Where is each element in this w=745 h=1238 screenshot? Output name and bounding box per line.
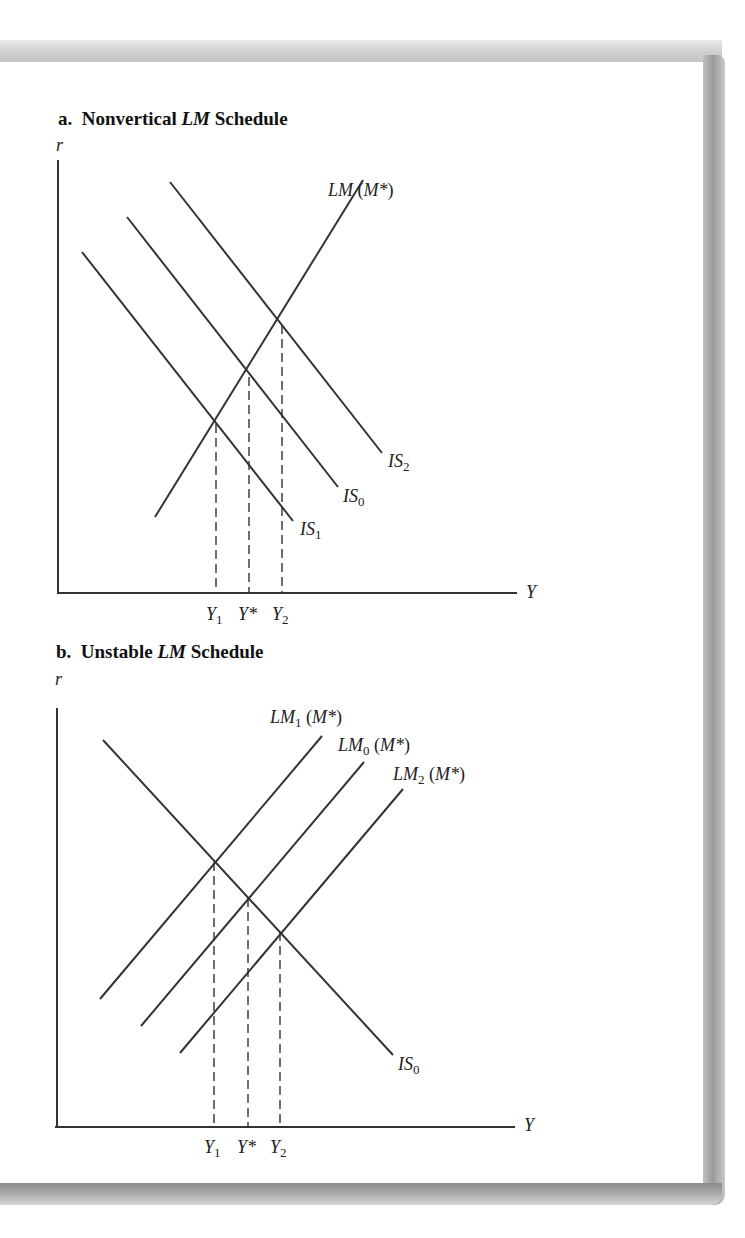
panel-b-tick-y2: Y2 bbox=[270, 1138, 287, 1159]
is0-sub: 0 bbox=[413, 1062, 420, 1077]
panel-b-x-axis-label: Y bbox=[524, 1116, 534, 1134]
lm0-paren-open: ( bbox=[370, 735, 381, 755]
tick-name: Y* bbox=[238, 604, 257, 624]
is0-sub: 0 bbox=[358, 494, 365, 509]
panel-a-tick-y2: Y2 bbox=[272, 605, 289, 626]
panel-b-lm0-label: LM0 (M*) bbox=[338, 736, 410, 757]
panel-a-y-axis-label: r bbox=[56, 136, 63, 154]
panel-a-title: a. Nonvertical LM Schedule bbox=[58, 108, 288, 130]
lm2-paren-open: ( bbox=[425, 764, 436, 784]
tick-sub: 2 bbox=[282, 612, 289, 627]
panel-a-graph bbox=[57, 160, 517, 593]
panel-a-is0-label: IS0 bbox=[343, 487, 365, 508]
panel-a-tick-y1: Y1 bbox=[206, 605, 223, 626]
tick-name: Y bbox=[204, 1137, 214, 1157]
panel-b-title-prefix: b. bbox=[56, 641, 71, 662]
lm-name: LM bbox=[328, 180, 353, 200]
panel-b-lm1-label: LM1 (M*) bbox=[270, 708, 342, 729]
panel-a-title-post: Schedule bbox=[210, 108, 288, 129]
tick-sub: 1 bbox=[216, 612, 223, 627]
panel-b-y-axis-label: r bbox=[55, 670, 62, 688]
tick-name: Y bbox=[272, 604, 282, 624]
lm1-name: LM bbox=[270, 707, 295, 727]
is0-name: IS bbox=[343, 486, 358, 506]
panel-a-is1-label: IS1 bbox=[300, 520, 322, 541]
panel-b-tick-y1: Y1 bbox=[204, 1138, 221, 1159]
lm-paren-open: ( bbox=[353, 180, 364, 200]
panel-b-lm2-label: LM2 (M*) bbox=[393, 765, 465, 786]
panel-a-title-italic: LM bbox=[181, 108, 210, 129]
lm-arg: M* bbox=[364, 180, 388, 200]
tick-name: Y bbox=[270, 1137, 280, 1157]
lm2-name: LM bbox=[393, 764, 418, 784]
lm1-arg: M* bbox=[312, 707, 336, 727]
lm-paren-close: ) bbox=[388, 180, 394, 200]
tick-sub: 1 bbox=[214, 1145, 221, 1160]
lm0-name: LM bbox=[338, 735, 363, 755]
is1-sub: 1 bbox=[315, 527, 322, 542]
lm0-paren-close: ) bbox=[404, 735, 410, 755]
is1-name: IS bbox=[300, 519, 315, 539]
panel-b-title: b. Unstable LM Schedule bbox=[56, 641, 263, 663]
is2-name: IS bbox=[388, 451, 403, 471]
panel-b-lm1-curve bbox=[100, 736, 322, 999]
panel-a-is1-curve bbox=[82, 252, 293, 521]
tick-name: Y bbox=[206, 604, 216, 624]
lm2-paren-close: ) bbox=[459, 764, 465, 784]
tick-sub: 2 bbox=[280, 1145, 287, 1160]
panel-b-title-post: Schedule bbox=[186, 641, 264, 662]
panel-a-tick-ystar: Y* bbox=[238, 605, 257, 623]
panel-a-is2-label: IS2 bbox=[388, 452, 410, 473]
panel-b-is0-curve bbox=[103, 740, 393, 1055]
lm2-arg: M* bbox=[435, 764, 459, 784]
is2-sub: 2 bbox=[403, 459, 410, 474]
panel-b-is0-label: IS0 bbox=[398, 1055, 420, 1076]
panel-a-lm-curve bbox=[155, 180, 363, 517]
panel-b-tick-ystar: Y* bbox=[237, 1138, 256, 1156]
panel-a-x-axis-label: Y bbox=[526, 583, 536, 601]
lm0-arg: M* bbox=[380, 735, 404, 755]
tick-name: Y* bbox=[237, 1137, 256, 1157]
panel-a-lm-label: LM (M*) bbox=[328, 181, 394, 199]
panel-a-title-pre: Nonvertical bbox=[82, 108, 182, 129]
is0-name: IS bbox=[398, 1054, 413, 1074]
lm1-paren-close: ) bbox=[336, 707, 342, 727]
lm1-paren-open: ( bbox=[302, 707, 313, 727]
panel-a-is0-curve bbox=[127, 217, 338, 487]
panel-b-title-italic: LM bbox=[157, 641, 186, 662]
panel-a-title-prefix: a. bbox=[58, 108, 72, 129]
panel-b-title-pre: Unstable bbox=[81, 641, 158, 662]
panel-a-is2-curve bbox=[170, 182, 382, 453]
